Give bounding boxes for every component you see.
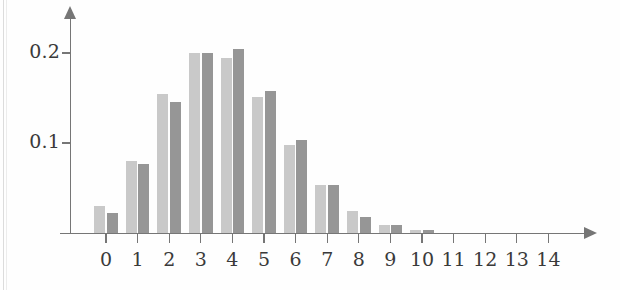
x-axis-tick [485,234,486,243]
bar [315,185,326,233]
x-axis-tick [327,234,328,243]
bar [410,230,421,233]
bar [233,49,244,234]
bar [94,206,105,233]
y-axis-line [70,14,71,234]
x-axis-tick [263,234,264,243]
x-axis-tick [453,234,454,243]
bar [347,211,358,233]
y-axis-tick-label-text: 0.2 [0,40,60,62]
bar [328,185,339,233]
x-axis-line [60,233,585,234]
x-axis-tick [200,234,201,243]
y-axis-tick-label-text: 0.1 [0,130,60,152]
bar [138,164,149,233]
x-axis-tick [516,234,517,243]
x-axis-tick-label: 14 [528,248,568,270]
bar [126,161,137,233]
bar [202,53,213,233]
bar [252,97,263,233]
x-axis-tick [390,234,391,243]
bar [296,140,307,233]
bar [107,213,118,233]
x-axis-tick [548,234,549,243]
x-axis-tick [421,234,422,243]
x-axis-tick [137,234,138,243]
plot-area: 0.10.2 01234567891011121314 [0,0,620,290]
x-axis-arrowhead-icon [584,227,597,239]
y-axis-tick [62,142,71,143]
x-axis-tick [105,234,106,243]
y-axis-arrowhead-icon [64,6,76,19]
y-axis-tick-label: 0.2 [0,40,58,62]
x-axis-tick [169,234,170,243]
bar [423,230,434,233]
y-axis-tick-label: 0.1 [0,130,58,152]
bar [189,53,200,233]
bar [170,102,181,233]
x-axis-tick [295,234,296,243]
bar [379,225,390,233]
x-axis-tick [232,234,233,243]
bar [221,58,232,234]
x-axis-tick [358,234,359,243]
bar [284,145,295,233]
bar [391,225,402,233]
bar-chart-figure: 0.10.2 01234567891011121314 [0,0,620,290]
y-axis-tick [62,52,71,53]
bar [265,91,276,233]
bar [157,94,168,234]
bar [360,217,371,233]
